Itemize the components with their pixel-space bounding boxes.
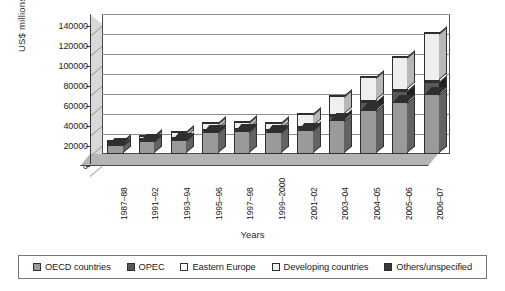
x-tick-label: 1999–2000 <box>277 178 287 220</box>
y-tick-label: 140000 <box>59 21 88 31</box>
bar-segment[interactable] <box>202 132 218 154</box>
legend-swatch <box>180 263 188 271</box>
bar-segment[interactable] <box>171 140 187 154</box>
legend-swatch <box>272 263 280 271</box>
bar-segment[interactable] <box>360 77 376 101</box>
y-tick-label: 40000 <box>63 121 88 131</box>
y-tick-label: 80000 <box>63 81 88 91</box>
bar-segment-side <box>439 88 447 153</box>
y-tick-label: 100000 <box>59 61 88 71</box>
y-tick-mark <box>86 126 90 127</box>
bar-segment[interactable] <box>392 57 408 90</box>
bar-stack <box>265 122 281 154</box>
bar-stack <box>234 121 250 154</box>
bar-segment[interactable] <box>234 131 250 154</box>
y-tick-mark <box>86 26 90 27</box>
bar-stack <box>171 132 187 154</box>
legend-label: Eastern Europe <box>192 262 255 272</box>
legend-label: Others/unspecified <box>396 262 472 272</box>
legend-label: OPEC <box>139 262 165 272</box>
x-tick-label: 1987–88 <box>119 187 129 220</box>
chart-figure: US$ millions 020000400006000080000100000… <box>0 0 505 291</box>
x-tick-label: 1995–96 <box>214 187 224 220</box>
legend-item[interactable]: Others/unspecified <box>384 262 472 272</box>
bar-segment[interactable] <box>107 145 123 154</box>
bar-stack <box>297 114 313 154</box>
bar-segment[interactable] <box>424 94 440 154</box>
x-tick-label: 2003–04 <box>340 187 350 220</box>
legend-item[interactable]: OECD countries <box>33 262 111 272</box>
chart-legend: OECD countriesOPECEastern EuropeDevelopi… <box>18 255 487 279</box>
legend-item[interactable]: OPEC <box>127 262 165 272</box>
bar-segment[interactable] <box>139 141 155 154</box>
y-axis-tick-labels: 020000400006000080000100000120000140000 <box>26 14 88 166</box>
legend-item[interactable]: Eastern Europe <box>180 262 255 272</box>
x-tick-label: 1991–92 <box>150 187 160 220</box>
bar-stack <box>360 77 376 154</box>
y-tick-mark <box>86 86 90 87</box>
bar-segment[interactable] <box>360 110 376 154</box>
bar-segment[interactable] <box>297 130 313 154</box>
legend-label: OECD countries <box>45 262 111 272</box>
legend-label: Developing countries <box>284 262 369 272</box>
x-tick-label: 1997–98 <box>245 187 255 220</box>
bar-segment[interactable] <box>424 33 440 81</box>
bar-segment[interactable] <box>329 120 345 154</box>
x-tick-label: 2006–07 <box>435 187 445 220</box>
legend-item[interactable]: Developing countries <box>272 262 369 272</box>
plot-floor <box>80 154 438 166</box>
bar-segment-side <box>407 96 415 153</box>
bar-series-container <box>102 14 450 154</box>
x-axis-title: Years <box>0 229 505 240</box>
y-tick-label: 20000 <box>63 141 88 151</box>
plot-side-wall <box>90 14 102 164</box>
bar-stack <box>392 57 408 154</box>
bar-segment-side <box>344 114 352 153</box>
bar-stack <box>139 135 155 154</box>
y-axis-line <box>90 24 91 164</box>
y-tick-mark <box>86 146 90 147</box>
y-tick-label: 60000 <box>63 101 88 111</box>
y-tick-label: 120000 <box>59 41 88 51</box>
bar-segment[interactable] <box>392 102 408 154</box>
legend-swatch <box>33 263 41 271</box>
bar-stack <box>329 96 345 154</box>
bar-stack <box>202 122 218 154</box>
bar-stack <box>107 141 123 154</box>
bar-stack <box>424 33 440 154</box>
bar-segment[interactable] <box>265 132 281 154</box>
y-tick-mark <box>86 106 90 107</box>
bar-segment-side <box>439 28 447 81</box>
bar-segment-side <box>376 104 384 153</box>
x-tick-label: 1993–94 <box>182 187 192 220</box>
legend-swatch <box>127 263 135 271</box>
x-axis-tick-labels: 1987–881991–921993–941995–961997–981999–… <box>90 168 460 224</box>
y-tick-mark <box>86 46 90 47</box>
legend-swatch <box>384 263 392 271</box>
x-tick-label: 2004–05 <box>372 187 382 220</box>
plot-area <box>90 14 450 166</box>
x-tick-label: 2001–02 <box>309 187 319 220</box>
y-tick-mark <box>86 166 90 167</box>
x-tick-label: 2005–06 <box>404 187 414 220</box>
y-tick-mark <box>86 66 90 67</box>
